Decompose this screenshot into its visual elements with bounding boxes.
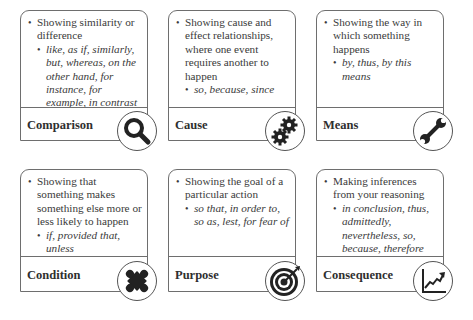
card-title: Means bbox=[323, 118, 358, 133]
divider bbox=[169, 107, 295, 108]
card-title: Comparison bbox=[27, 118, 93, 133]
examples: so, because, since bbox=[174, 83, 290, 96]
examples: so that, in order to, so as, lest, for f… bbox=[174, 202, 290, 229]
trend-chart-icon bbox=[413, 261, 453, 301]
card-body: Showing similarity or difference like, a… bbox=[21, 11, 147, 110]
divider bbox=[317, 256, 443, 257]
examples: if, provided that, unless bbox=[26, 229, 142, 256]
description: Showing that something makes something e… bbox=[26, 175, 142, 229]
description: Showing the way in which something happe… bbox=[322, 16, 438, 56]
gears-icon bbox=[265, 111, 305, 151]
puzzle-piece-icon bbox=[117, 261, 157, 301]
wrench-icon bbox=[413, 111, 453, 151]
divider bbox=[21, 256, 147, 257]
magnifying-glass-icon bbox=[117, 111, 157, 151]
examples: in conclusion, thus, admittedly, neverth… bbox=[322, 202, 438, 256]
card-body: Making inferences from your reasoning in… bbox=[317, 170, 443, 255]
card-body: Showing the goal of a particular action … bbox=[169, 170, 295, 229]
card-body: Showing the way in which something happe… bbox=[317, 11, 443, 83]
description: Showing the goal of a particular action bbox=[174, 175, 290, 202]
card-title: Cause bbox=[175, 118, 208, 133]
examples: like, as if, similarly, but, whereas, on… bbox=[26, 43, 142, 110]
divider bbox=[169, 256, 295, 257]
description: Showing cause and effect relationships, … bbox=[174, 16, 290, 83]
target-icon bbox=[265, 261, 305, 301]
card-body: Showing that something makes something e… bbox=[21, 170, 147, 255]
card-title: Purpose bbox=[175, 268, 219, 283]
card-body: Showing cause and effect relationships, … bbox=[169, 11, 295, 96]
description: Making inferences from your reasoning bbox=[322, 175, 438, 202]
examples: by, thus, by this means bbox=[322, 56, 438, 83]
divider bbox=[317, 107, 443, 108]
card-title: Condition bbox=[27, 268, 81, 283]
divider bbox=[21, 107, 147, 108]
description: Showing similarity or difference bbox=[26, 16, 142, 43]
card-title: Consequence bbox=[323, 268, 393, 283]
